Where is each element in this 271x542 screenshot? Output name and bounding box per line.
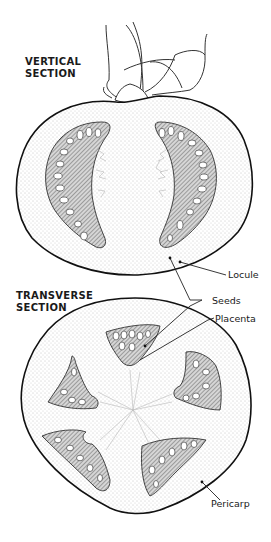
transverse-section-title: TRANSVERSE SECTION <box>16 290 93 314</box>
transverse-section-title-line2: SECTION <box>16 302 93 314</box>
vertical-section-title-line2: SECTION <box>25 68 81 80</box>
label-seeds: Seeds <box>212 295 241 306</box>
transverse-section <box>21 298 251 514</box>
locule-leader <box>180 262 226 275</box>
label-pericarp: Pericarp <box>211 498 250 509</box>
calyx-sepals <box>103 22 207 98</box>
label-locule: Locule <box>228 269 259 280</box>
vertical-section-title: VERTICAL SECTION <box>25 56 81 80</box>
transverse-section-title-line1: TRANSVERSE <box>16 290 93 302</box>
vertical-section-title-line1: VERTICAL <box>25 56 81 68</box>
label-placenta: Placenta <box>215 313 256 324</box>
